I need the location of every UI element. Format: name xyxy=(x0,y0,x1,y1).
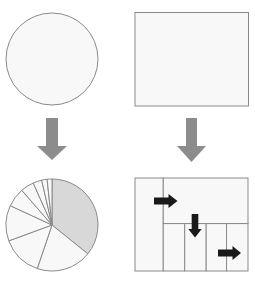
down-arrow-icon xyxy=(177,118,206,162)
pie-chart xyxy=(6,179,98,271)
treemap-cell xyxy=(163,224,184,271)
rectangle-shape xyxy=(135,13,249,107)
treemap-cell xyxy=(227,224,248,271)
down-arrow-icon xyxy=(37,118,67,160)
treemap-cell xyxy=(135,178,163,271)
diagram-canvas xyxy=(0,0,255,282)
circle-shape xyxy=(6,13,98,105)
treemap-chart xyxy=(135,178,248,271)
treemap-cell xyxy=(206,224,226,271)
